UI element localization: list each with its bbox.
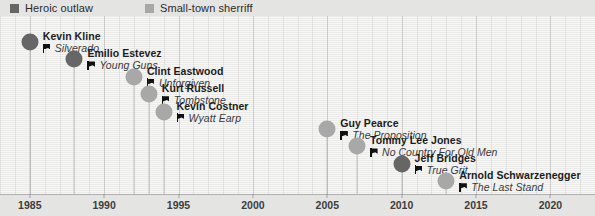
- data-point-marker[interactable]: [349, 138, 366, 155]
- film-row: The Last Stand: [459, 181, 580, 193]
- western-films-timeline-chart: Kevin KlineSilveradoEmilio EstevezYoung …: [0, 0, 595, 216]
- legend: Heroic outlaw Small-town sherriff: [0, 0, 595, 16]
- flag-icon: [415, 165, 423, 174]
- gridline-minor: [372, 16, 373, 194]
- x-axis-tick-label: 1995: [167, 199, 190, 211]
- flag-icon: [43, 44, 51, 53]
- point-stem: [74, 59, 75, 194]
- gridline-minor: [283, 16, 284, 194]
- legend-label-sherriff: Small-town sherriff: [160, 2, 253, 14]
- actor-name: Kevin Kline: [43, 30, 101, 42]
- flag-icon: [177, 113, 185, 122]
- x-axis-tick-label: 2000: [241, 199, 264, 211]
- gridline-minor: [536, 16, 537, 194]
- film-title: The Last Stand: [471, 181, 543, 193]
- data-point-marker[interactable]: [140, 86, 157, 103]
- gridline-minor: [506, 16, 507, 194]
- actor-name: Guy Pearce: [340, 117, 426, 129]
- gridline-minor: [312, 16, 313, 194]
- gridline-minor: [0, 16, 1, 194]
- x-axis-tick-label: 2010: [390, 199, 413, 211]
- legend-item-small-town-sherriff[interactable]: Small-town sherriff: [145, 0, 253, 16]
- x-axis-line: [0, 194, 595, 195]
- data-point-marker[interactable]: [393, 155, 410, 172]
- gridline-minor: [521, 16, 522, 194]
- data-point-label: Arnold SchwarzeneggerThe Last Stand: [459, 169, 580, 193]
- x-axis-tick-label: 1985: [18, 199, 41, 211]
- gridline-minor: [387, 16, 388, 194]
- legend-label-outlaw: Heroic outlaw: [25, 2, 93, 14]
- data-point-marker[interactable]: [438, 173, 455, 190]
- gridline-major: [550, 16, 551, 194]
- actor-name: Kurt Russell: [162, 82, 226, 94]
- x-axis-tick: [401, 194, 402, 198]
- gridline-major: [253, 16, 254, 194]
- x-axis-tick: [476, 194, 477, 198]
- actor-name: Clint Eastwood: [147, 65, 224, 77]
- data-point-marker[interactable]: [66, 51, 83, 68]
- gridline-minor: [580, 16, 581, 194]
- gridline-major: [476, 16, 477, 194]
- flag-icon: [459, 183, 467, 192]
- data-point-marker[interactable]: [21, 34, 38, 51]
- legend-swatch-sherriff-icon: [145, 4, 154, 13]
- gridline-minor: [268, 16, 269, 194]
- flag-icon: [340, 131, 348, 140]
- gridline-minor: [298, 16, 299, 194]
- plot-area: Kevin KlineSilveradoEmilio EstevezYoung …: [0, 16, 595, 194]
- actor-name: Jeff Bridges: [415, 152, 476, 164]
- flag-icon: [370, 148, 378, 157]
- x-axis-tick-label: 2005: [316, 199, 339, 211]
- point-stem: [327, 129, 328, 194]
- gridline-minor: [491, 16, 492, 194]
- data-point-marker[interactable]: [125, 68, 142, 85]
- gridline-major: [104, 16, 105, 194]
- x-axis-tick-label: 1990: [92, 199, 115, 211]
- x-axis-tick-label: 2015: [464, 199, 487, 211]
- actor-name: Arnold Schwarzenegger: [459, 169, 580, 181]
- legend-item-heroic-outlaw[interactable]: Heroic outlaw: [10, 0, 93, 16]
- point-stem: [163, 112, 164, 194]
- point-stem: [148, 94, 149, 194]
- point-stem: [133, 77, 134, 194]
- legend-swatch-outlaw-icon: [10, 4, 19, 13]
- x-axis-tick: [29, 194, 30, 198]
- gridline-minor: [342, 16, 343, 194]
- flag-icon: [87, 61, 95, 70]
- x-axis-tick: [252, 194, 253, 198]
- x-axis-tick: [104, 194, 105, 198]
- gridline-minor: [15, 16, 16, 194]
- x-axis-tick: [327, 194, 328, 198]
- film-title: Wyatt Earp: [189, 112, 241, 124]
- x-axis-tick: [178, 194, 179, 198]
- gridline-minor: [565, 16, 566, 194]
- x-axis: 19851990199520002005201020152020: [0, 194, 595, 216]
- data-point-marker[interactable]: [319, 121, 336, 138]
- film-row: Wyatt Earp: [177, 112, 249, 124]
- data-point-marker[interactable]: [155, 103, 172, 120]
- data-point-label: Kevin CostnerWyatt Earp: [177, 100, 249, 124]
- actor-name: Tommy Lee Jones: [370, 134, 497, 146]
- gridline-minor: [119, 16, 120, 194]
- x-axis-tick: [550, 194, 551, 198]
- actor-name: Kevin Costner: [177, 100, 249, 112]
- x-axis-tick-label: 2020: [539, 199, 562, 211]
- point-stem: [29, 42, 30, 194]
- actor-name: Emilio Estevez: [87, 47, 161, 59]
